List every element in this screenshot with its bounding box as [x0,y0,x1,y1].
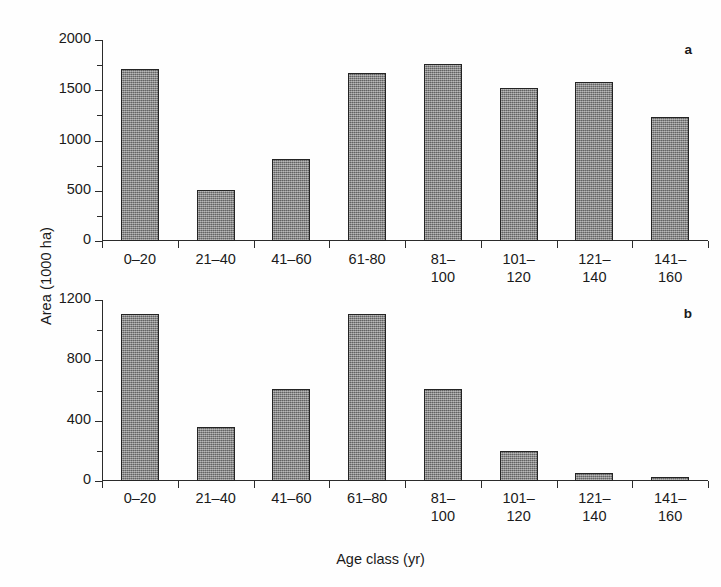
x-category-label: 41–60 [254,250,330,286]
bar-slot [481,40,557,241]
x-tick [254,481,255,488]
x-tick [708,241,709,248]
bar [500,88,538,241]
x-category-label: 0–20 [102,489,178,525]
y-tick-label: 1000 [59,131,91,147]
y-tick: 2000 [95,40,102,41]
bar [348,73,386,241]
x-category-label: 61-80 [329,250,405,286]
x-category-label: 81– 100 [405,250,481,286]
x-tick-labels-b: 0–2021–4041–6061–8081– 100101– 120121– 1… [102,489,708,525]
bar [121,314,159,481]
bar-series-a [102,40,708,241]
bar-slot [102,300,178,481]
x-tick [632,241,633,248]
x-category-label: 121– 140 [557,250,633,286]
y-tick: 0 [95,241,102,242]
x-category-label: 141– 160 [632,250,708,286]
y-tick-label: 2000 [59,30,91,46]
bar-slot [557,40,633,241]
bar [575,82,613,241]
x-tick [708,481,709,488]
x-category-label: 101– 120 [481,489,557,525]
x-tick [329,481,330,488]
x-tick [481,241,482,248]
y-tick: 500 [95,191,102,192]
bar [500,451,538,481]
figure-canvas: Area (1000 ha) a 0500100015002000 0–2021… [0,0,721,587]
bar-slot [632,300,708,481]
x-category-label: 101– 120 [481,250,557,286]
chart-panel-a: a 0500100015002000 0–2021–4041–6061-8081… [46,22,714,284]
bar [575,473,613,481]
y-tick-label: 500 [67,181,91,197]
bar-slot [329,300,405,481]
y-tick: 800 [95,360,102,361]
bar [272,159,310,241]
bar [424,64,462,241]
y-tick: 1200 [95,300,102,301]
x-tick [178,241,179,248]
x-category-label: 21–40 [178,489,254,525]
bar-slot [254,300,330,481]
x-tick [405,241,406,248]
bar [121,69,159,241]
x-tick [329,241,330,248]
bar-slot [329,40,405,241]
bar-slot [178,40,254,241]
y-tick-label: 800 [67,350,91,366]
bar-series-b [102,300,708,481]
bar-slot [481,300,557,481]
y-tick: 400 [95,421,102,422]
x-tick [632,481,633,488]
plot-area-b: 04008001200 [102,300,708,481]
bar-slot [557,300,633,481]
x-tick [102,481,103,488]
bar [197,190,235,241]
y-tick-label: 0 [83,231,91,247]
y-tick-label: 400 [67,411,91,427]
x-category-label: 41–60 [254,489,330,525]
x-category-label: 141– 160 [632,489,708,525]
bar-slot [102,40,178,241]
bar [272,389,310,481]
y-tick: 1000 [95,141,102,142]
bar [348,314,386,481]
bar-slot [632,40,708,241]
x-tick-labels-a: 0–2021–4041–6061-8081– 100101– 120121– 1… [102,250,708,286]
x-axis-title: Age class (yr) [46,551,715,567]
bar [197,427,235,481]
bar-slot [254,40,330,241]
bar-slot [178,300,254,481]
y-tick-label: 0 [83,471,91,487]
x-category-label: 0–20 [102,250,178,286]
x-tick [557,481,558,488]
x-category-label: 121– 140 [557,489,633,525]
chart-panel-b: b 04008001200 0–2021–4041–6061–8081– 100… [46,284,714,544]
bar [651,117,689,241]
bar [651,477,689,481]
y-tick-label: 1500 [59,80,91,96]
bar-slot [405,40,481,241]
x-category-label: 21–40 [178,250,254,286]
x-tick [405,481,406,488]
y-tick: 0 [95,481,102,482]
x-category-label: 61–80 [329,489,405,525]
x-tick [557,241,558,248]
plot-area-a: 0500100015002000 [102,40,708,241]
y-axis-title-area: Area (1000 ha) [0,0,46,587]
x-tick [254,241,255,248]
x-tick [102,241,103,248]
x-category-label: 81– 100 [405,489,481,525]
y-tick-label: 1200 [59,290,91,306]
x-tick [481,481,482,488]
y-tick: 1500 [95,90,102,91]
bar [424,389,462,481]
x-tick [178,481,179,488]
bar-slot [405,300,481,481]
